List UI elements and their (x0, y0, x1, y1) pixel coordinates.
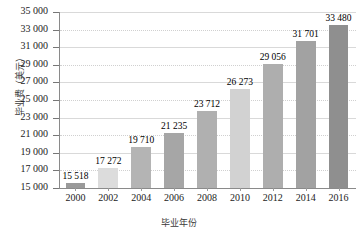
y-axis-tick-label: 23 000 (2, 111, 48, 122)
y-axis-tick-label: 25 000 (2, 93, 48, 104)
bar (296, 41, 316, 188)
x-axis-tick-mark (207, 188, 208, 191)
x-axis-tick-mark (306, 188, 307, 191)
x-axis-tick-mark (108, 188, 109, 191)
bar (329, 25, 349, 188)
y-axis-tick-label: 27 000 (2, 75, 48, 86)
bar-value-label: 31 701 (282, 29, 330, 39)
y-axis-tick-mark (53, 153, 59, 154)
x-axis-tick-mark (141, 188, 142, 191)
x-axis-tick-mark (174, 188, 175, 191)
y-axis-tick-mark (53, 100, 59, 101)
y-axis-tick-label: 17 000 (2, 163, 48, 174)
y-axis-tick-label: 19 000 (2, 146, 48, 157)
y-axis-tick-mark (53, 65, 59, 66)
y-axis-tick-label: 15 000 (2, 181, 48, 192)
y-axis-tick-mark (53, 82, 59, 83)
y-axis-tick-label: 29 000 (2, 58, 48, 69)
bar (197, 111, 217, 188)
bar-value-label: 19 710 (117, 135, 165, 145)
bar-value-label: 21 235 (150, 121, 198, 131)
y-axis-tick-label: 33 000 (2, 23, 48, 34)
bar-chart: 毕业费（美元） 15 00017 00019 00021 00023 00025… (0, 0, 358, 235)
x-axis-tick-mark (339, 188, 340, 191)
bar-value-label: 23 712 (183, 99, 231, 109)
bar (131, 147, 151, 188)
x-axis-tick-mark (240, 188, 241, 191)
y-axis-tick-mark (53, 135, 59, 136)
x-axis-tick-mark (273, 188, 274, 191)
y-axis-tick-mark (53, 12, 59, 13)
bar (263, 64, 283, 188)
y-axis-tick-label: 35 000 (2, 5, 48, 16)
y-axis-tick-mark (53, 47, 59, 48)
x-axis-tick-mark (75, 188, 76, 191)
gridline (60, 12, 356, 13)
bar (164, 133, 184, 188)
x-axis-tick-label: 2016 (319, 192, 358, 203)
bar-value-label: 15 518 (51, 171, 99, 181)
bar-value-label: 26 273 (216, 77, 264, 87)
bar (230, 89, 250, 188)
x-axis-title: 毕业年份 (0, 216, 358, 229)
bar-value-label: 17 272 (84, 156, 132, 166)
y-axis-tick-label: 21 000 (2, 128, 48, 139)
bar-value-label: 33 480 (315, 13, 358, 23)
y-axis-tick-mark (53, 118, 59, 119)
y-axis-tick-label: 31 000 (2, 40, 48, 51)
y-axis-tick-mark (53, 188, 59, 189)
y-axis-tick-mark (53, 30, 59, 31)
bar-value-label: 29 056 (249, 52, 297, 62)
bar (98, 168, 118, 188)
